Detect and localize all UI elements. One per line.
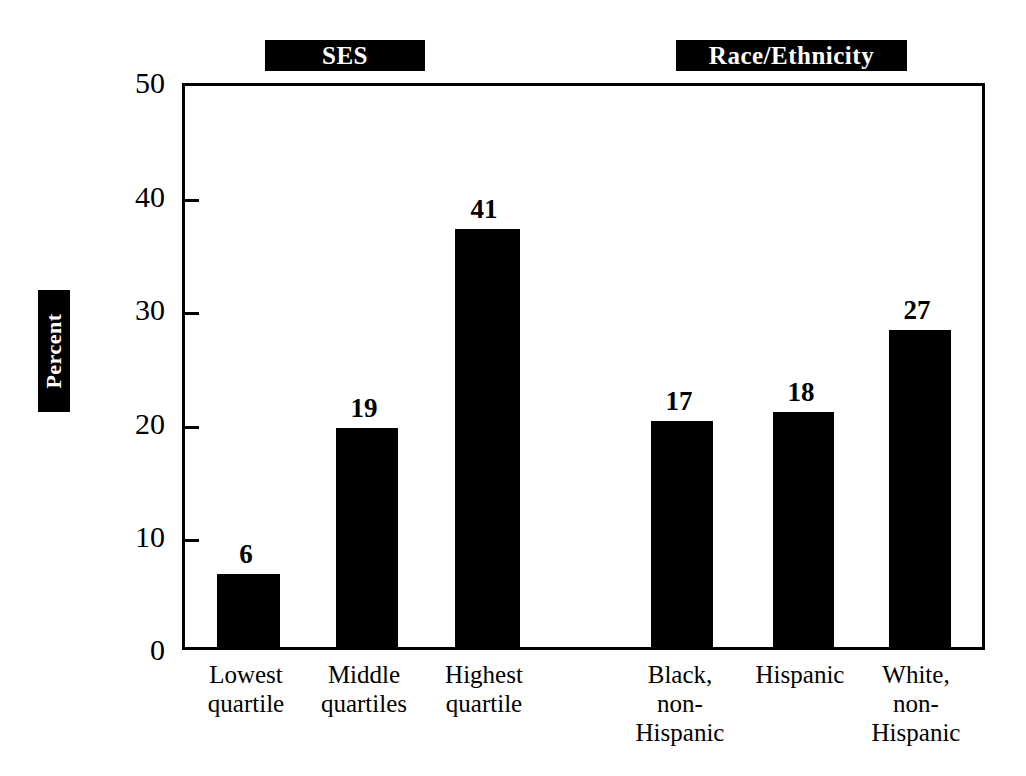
bar-value-label: 41 <box>443 196 525 223</box>
x-axis-category-label-line: quartile <box>408 689 560 718</box>
y-axis-tick-label: 50 <box>95 68 165 98</box>
bar <box>455 229 520 647</box>
bar <box>773 412 834 647</box>
y-axis-title: Percent <box>38 290 70 412</box>
x-axis-category-label-line: non- <box>840 689 992 718</box>
y-axis-tick-label: 20 <box>95 409 165 439</box>
y-axis-tick-mark <box>185 312 199 315</box>
group-header-race-ethnicity: Race/Ethnicity <box>676 40 907 71</box>
bar-value-label: 19 <box>323 395 405 422</box>
y-axis-tick-mark <box>185 426 199 429</box>
bar-value-label: 6 <box>205 541 287 568</box>
group-header-ses: SES <box>265 40 425 71</box>
y-axis-tick-mark <box>185 539 199 542</box>
y-axis-tick-mark <box>185 199 199 202</box>
group-header-race-ethnicity-label: Race/Ethnicity <box>709 42 874 70</box>
x-axis-category-label: White,non-Hispanic <box>840 660 992 747</box>
y-axis-tick-label: 30 <box>95 295 165 325</box>
bar-value-label: 17 <box>638 388 720 415</box>
y-axis-tick-label: 40 <box>95 182 165 212</box>
x-axis-category-label-line: Hispanic <box>604 718 756 747</box>
chart-plot-area <box>182 83 985 650</box>
y-axis-tick-label: 10 <box>95 522 165 552</box>
x-axis-category-label-line: Highest <box>408 660 560 689</box>
bar <box>217 574 280 647</box>
x-axis-category-label: Highestquartile <box>408 660 560 718</box>
bar <box>651 421 713 647</box>
group-header-ses-label: SES <box>322 42 368 70</box>
bar-value-label: 27 <box>876 297 958 324</box>
x-axis-category-label-line: Hispanic <box>840 718 992 747</box>
bar <box>336 428 398 647</box>
bar-value-label: 18 <box>760 379 842 406</box>
plot-inner <box>185 86 982 647</box>
y-axis-tick-label: 0 <box>95 635 165 665</box>
bar <box>889 330 951 647</box>
y-axis-title-label: Percent <box>38 290 70 412</box>
x-axis-category-label-line: White, <box>840 660 992 689</box>
x-axis-category-label-line: non- <box>604 689 756 718</box>
